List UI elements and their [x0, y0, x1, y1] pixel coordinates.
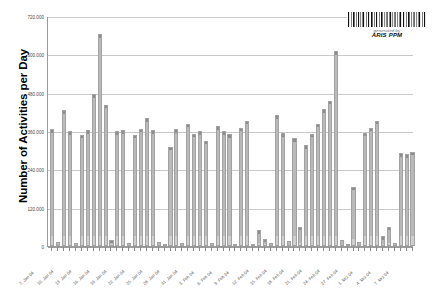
- x-axis-tick-label: 4. Mrz 04: [355, 270, 372, 286]
- bar-body: [121, 130, 125, 246]
- bar-cap: [122, 131, 124, 134]
- bar-foot: [87, 236, 89, 245]
- bar-body: [239, 128, 243, 246]
- bar-foot: [370, 236, 372, 245]
- bar-body: [393, 243, 397, 246]
- bar-foot: [217, 236, 219, 245]
- bar-body: [216, 126, 220, 246]
- bar: [334, 51, 338, 246]
- bar-body: [222, 131, 226, 246]
- x-axis-tick-label: 15. Feb 04: [249, 269, 268, 286]
- bar-body: [62, 110, 66, 246]
- bar-cap: [93, 95, 95, 98]
- bar-cap: [376, 122, 378, 125]
- x-axis-tick-label: 28. Jan 04: [143, 269, 161, 286]
- bar-body: [363, 133, 367, 246]
- bar-cap: [406, 155, 408, 158]
- bar: [405, 154, 409, 246]
- bar-body: [346, 244, 350, 246]
- bar-foot: [146, 236, 148, 245]
- bar-body: [357, 242, 361, 246]
- bar: [222, 131, 226, 246]
- bar-body: [322, 109, 326, 246]
- bar-body: [192, 134, 196, 246]
- bar-cap: [411, 153, 413, 156]
- bar-foot: [329, 236, 331, 245]
- bar-body: [180, 243, 184, 246]
- bar-foot: [323, 236, 325, 245]
- bar: [310, 134, 314, 246]
- bar-body: [251, 244, 255, 246]
- x-axis-tick-label: 13. Jan 04: [54, 269, 72, 286]
- bar-chart: Number of Activities per Day 0120.000240…: [0, 0, 436, 289]
- bar: [192, 134, 196, 246]
- bar-body: [68, 131, 72, 246]
- bar-cap: [240, 129, 242, 132]
- bar-body: [281, 133, 285, 246]
- bar: [204, 141, 208, 246]
- bar: [316, 124, 320, 246]
- bar-cap: [116, 132, 118, 135]
- bar-cap: [311, 135, 313, 138]
- x-axis-tick-label: 7. Mrz 04: [373, 270, 390, 286]
- bar: [263, 239, 267, 246]
- bar-cap: [299, 228, 301, 231]
- bar-foot: [258, 243, 260, 245]
- bar-cap: [169, 148, 171, 151]
- bar: [340, 240, 344, 246]
- bar-foot: [105, 236, 107, 245]
- bar-body: [387, 227, 391, 246]
- x-axis-tick-label: 9. Feb 04: [213, 270, 230, 286]
- bar-foot: [376, 236, 378, 245]
- bar-body: [263, 239, 267, 246]
- y-axis-tick-label: 600.000: [27, 53, 44, 58]
- bar-series: [48, 17, 413, 246]
- bar: [322, 109, 326, 246]
- bar-cap: [323, 110, 325, 113]
- x-axis-tick-label: 19. Jan 04: [89, 269, 107, 286]
- bar-body: [98, 34, 102, 246]
- bar-cap: [258, 231, 260, 234]
- bar-foot: [152, 236, 154, 245]
- bar-body: [210, 243, 214, 246]
- x-axis-tick-label: 22. Jan 04: [107, 269, 125, 286]
- bar-foot: [116, 236, 118, 245]
- bar-body: [340, 240, 344, 246]
- bar: [387, 227, 391, 246]
- bar-body: [375, 121, 379, 246]
- watermark: generated by ARIS PPM: [346, 12, 428, 38]
- bar-foot: [335, 236, 337, 245]
- bar-body: [233, 244, 237, 246]
- y-axis-tick-label: 480.000: [27, 91, 44, 96]
- bar-cap: [246, 122, 248, 125]
- bar-cap: [305, 146, 307, 149]
- bar: [168, 147, 172, 246]
- bar-cap: [276, 116, 278, 119]
- bar: [139, 129, 143, 246]
- bar: [375, 121, 379, 246]
- y-axis-tick-label: 0: [41, 245, 44, 250]
- x-axis-tick-label: 27. Feb 04: [320, 269, 339, 286]
- bar: [351, 187, 355, 246]
- bar-body: [399, 153, 403, 246]
- bar: [186, 124, 190, 246]
- bar-foot: [199, 236, 201, 245]
- bar-foot: [246, 236, 248, 245]
- bar-foot: [228, 236, 230, 245]
- bar-foot: [276, 236, 278, 245]
- bar-cap: [51, 130, 53, 133]
- bar-foot: [400, 236, 402, 245]
- bar-foot: [81, 236, 83, 245]
- x-axis-tick-label: 3. Feb 04: [178, 270, 195, 286]
- bar-body: [369, 128, 373, 246]
- bar-body: [80, 135, 84, 246]
- bar-body: [287, 241, 291, 246]
- bar: [328, 101, 332, 246]
- bar: [68, 131, 72, 246]
- bar: [80, 135, 84, 246]
- bar: [115, 131, 119, 246]
- bar: [174, 129, 178, 246]
- bar-foot: [63, 236, 65, 245]
- bar-cap: [293, 139, 295, 142]
- bar-body: [198, 131, 202, 246]
